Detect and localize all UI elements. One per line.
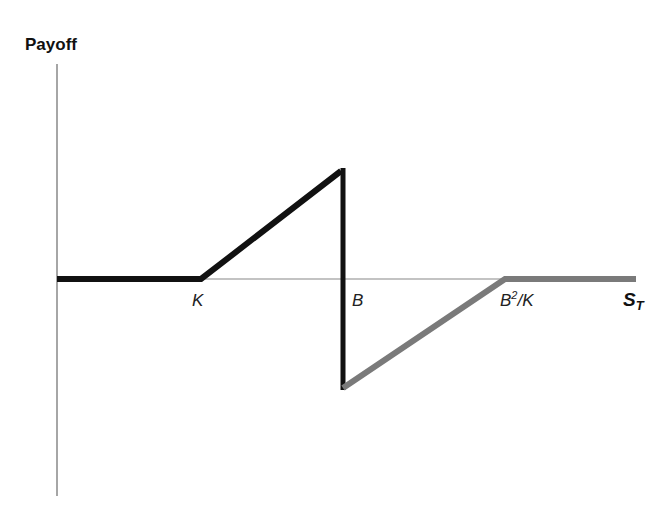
tick-label-b: B (352, 291, 363, 310)
x-axis-label: ST (623, 289, 645, 313)
tick-b2k-rest: /K (516, 291, 534, 310)
tick-b2k-base: B (500, 291, 511, 310)
y-axis-label: Payoff (25, 35, 77, 54)
tick-label-k: K (192, 291, 204, 310)
tick-label-b2-over-k: B2/K (500, 289, 534, 310)
payoff-diagram: Payoff K B B2/K ST (0, 0, 672, 506)
payoff-segment-negative-and-flat-right (343, 279, 636, 388)
x-axis-label-main: S (623, 289, 636, 310)
x-axis-label-sub: T (636, 298, 645, 313)
payoff-segment-flat-left-and-rising (57, 171, 341, 279)
tick-b2k-sup: 2 (510, 289, 517, 301)
